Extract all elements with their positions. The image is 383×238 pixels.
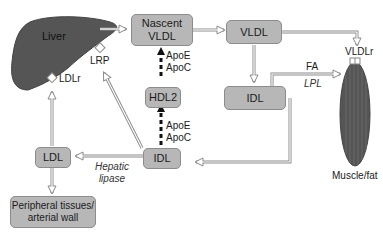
vldlr-label: VLDLr — [345, 46, 373, 57]
idl-box-right: IDL — [224, 86, 286, 110]
nascent-vldl-box: Nascent VLDL — [131, 14, 193, 46]
vldl-box: VLDL — [226, 20, 282, 44]
peripheral-box: Peripheral tissues/ arterial wall — [10, 196, 96, 228]
liver-label: Liver — [42, 30, 66, 42]
lrp-label: LRP — [90, 55, 109, 66]
ldlr-label: LDLr — [59, 73, 81, 84]
idl-box-center: IDL — [143, 148, 181, 169]
hepatic-lipase-label: Hepatic lipase — [95, 161, 129, 185]
lpl-label: LPL — [304, 78, 322, 89]
muscle-shape — [340, 58, 370, 166]
muscle-label: Muscle/fat — [332, 170, 378, 181]
hdl2-box: HDL2 — [145, 87, 181, 108]
ldl-box: LDL — [35, 147, 71, 168]
apo-top-label: ApoE ApoC — [166, 50, 191, 74]
fa-label: FA — [306, 61, 318, 72]
apo-bottom-label: ApoE ApoC — [166, 120, 191, 144]
